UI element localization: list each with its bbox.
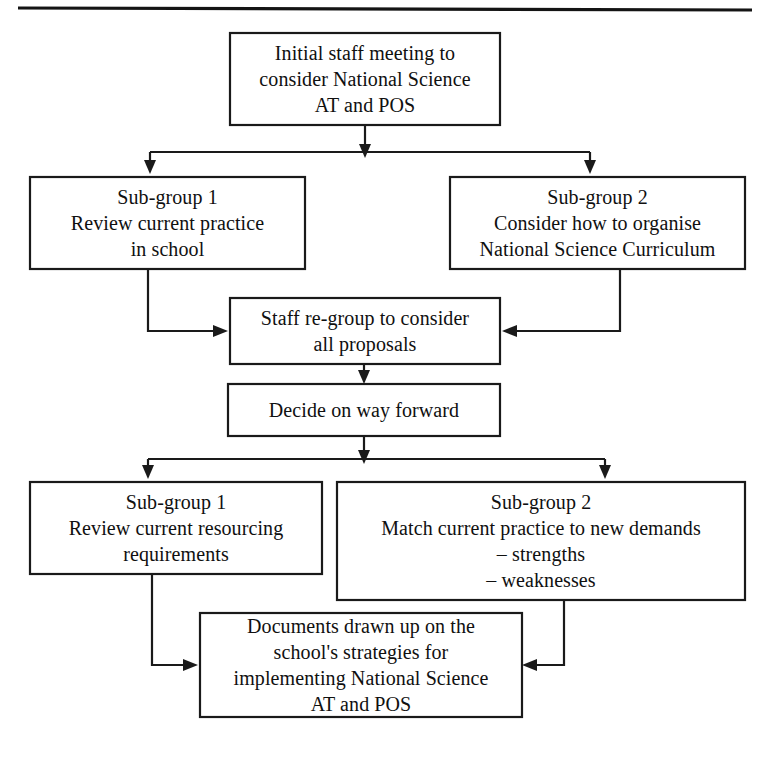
arrowhead-sub-group-2-to-staff-re-group: [502, 325, 517, 337]
arrowhead-sub-group-1-to-staff-re-group: [213, 325, 228, 337]
connector-sub-group-1-to-staff-re-group: [148, 269, 216, 331]
arrowhead-to-sub-group-1-resourcing: [142, 465, 154, 479]
connector-match-to-documents: [536, 600, 564, 665]
arrowhead-to-sub-group-2: [584, 160, 596, 174]
arrowhead-staff-re-group-to-decide: [358, 370, 370, 384]
sub-group-2-organise-curriculum-box: [450, 177, 745, 269]
decide-on-way-forward-box: [228, 384, 500, 436]
arrowhead-decide-down: [358, 450, 370, 464]
staff-re-group-box: [230, 298, 500, 364]
sub-group-2-match-practice-box: [337, 482, 745, 600]
arrowhead-to-sub-group-1: [144, 160, 156, 174]
sub-group-1-review-practice-box: [30, 177, 305, 269]
top-horizontal-rule: [18, 8, 752, 10]
documents-drawn-up-box: [200, 613, 522, 717]
connector-resourcing-to-documents: [152, 574, 186, 665]
flowchart-canvas: [0, 0, 770, 771]
sub-group-1-resourcing-box: [30, 482, 322, 574]
connector-sub-group-2-to-staff-re-group: [514, 269, 620, 331]
initial-staff-meeting-box: [230, 33, 500, 125]
arrowhead-match-to-documents: [522, 659, 537, 671]
flowchart-page: Initial staff meeting to consider Nation…: [0, 0, 770, 771]
arrowhead-to-sub-group-2-match: [599, 465, 611, 479]
arrowhead-resourcing-to-documents: [183, 659, 198, 671]
